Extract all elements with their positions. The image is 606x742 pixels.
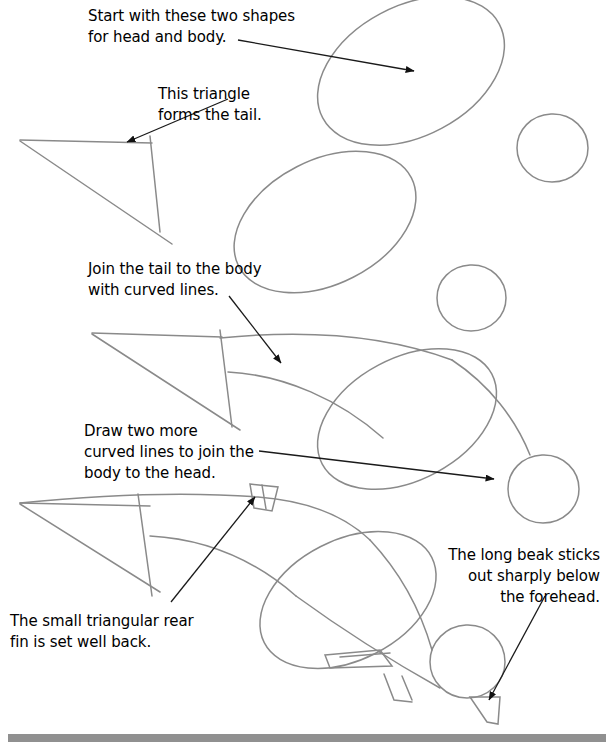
- head-circle-step4: [430, 625, 505, 698]
- upper-curve-step3: [220, 334, 452, 360]
- arrow-to-rear-fin: [171, 497, 255, 602]
- caption-rear-fin: The small triangular rear fin is set wel…: [10, 611, 240, 653]
- tail-triangle-hypotenuse-step4: [20, 504, 160, 592]
- arrow-to-beak: [489, 596, 545, 700]
- beak-step4: [470, 697, 500, 724]
- arrow-to-curved-join: [229, 296, 281, 363]
- caption-join-tail: Join the tail to the body with curved li…: [88, 259, 298, 301]
- head-circle-step1: [517, 114, 588, 182]
- caption-two-more-curves: Draw two more curved lines to join the b…: [84, 421, 294, 484]
- upper-body-curve-step4: [20, 494, 370, 540]
- bottom-gray-bar: [8, 734, 606, 742]
- leg-back-step4: [402, 676, 412, 700]
- lower-body-curve-step4: [150, 536, 296, 596]
- back-curve-to-head-step3: [452, 360, 530, 455]
- tutorial-page: Start with these two shapes for head and…: [0, 0, 606, 742]
- caption-tail-triangle: This triangle forms the tail.: [158, 84, 318, 126]
- belly-curve-step4: [296, 596, 440, 688]
- head-circle-step3: [508, 455, 579, 523]
- tail-triangle-vertical-step1: [150, 136, 160, 232]
- tail-triangle-top-step4: [20, 503, 150, 506]
- caption-long-beak: The long beak sticks out sharply below t…: [430, 545, 600, 608]
- head-circle-step2: [437, 265, 506, 331]
- tail-triangle-vertical-step3: [220, 330, 232, 427]
- arrow-to-head-join: [259, 451, 494, 479]
- tail-triangle-top-step3: [92, 333, 222, 337]
- neck-curve-step4: [370, 540, 432, 650]
- caption-start-shapes: Start with these two shapes for head and…: [88, 6, 328, 48]
- tail-triangle-hypotenuse-step3: [92, 334, 240, 430]
- tail-triangle-vertical-step4: [138, 494, 152, 596]
- tail-triangle-hypotenuse-step1: [20, 141, 172, 244]
- body-ellipse-step3: [294, 320, 521, 518]
- wing-step4: [325, 650, 392, 668]
